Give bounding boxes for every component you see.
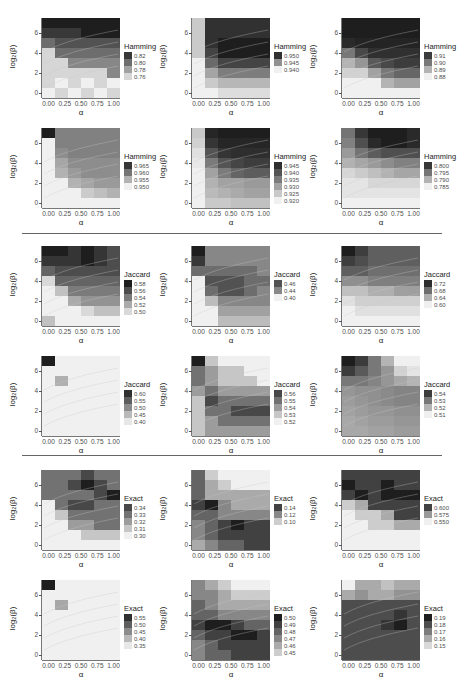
legend-entry: 0.54 bbox=[424, 390, 450, 397]
y-tick-label: 4 bbox=[176, 501, 188, 508]
x-axis-label: α bbox=[192, 336, 270, 345]
legend-swatch bbox=[124, 621, 132, 628]
y-axis-label: log₂(β) bbox=[154, 490, 168, 530]
legend-title: Jaccard bbox=[424, 270, 450, 279]
legend-value: 0.950 bbox=[284, 53, 299, 59]
y-tick-mark bbox=[39, 53, 42, 54]
y-axis-label-text: log₂(β) bbox=[308, 263, 317, 307]
legend-swatch bbox=[424, 404, 432, 411]
y-tick-label: 4 bbox=[326, 49, 338, 56]
y-tick-label: 2 bbox=[176, 297, 188, 304]
legend-swatch bbox=[124, 52, 132, 59]
legend-swatch bbox=[124, 66, 132, 73]
x-tick-label: 1.00 bbox=[254, 328, 274, 335]
contour-lines bbox=[342, 18, 420, 98]
legend-value: 0.19 bbox=[434, 615, 446, 621]
y-axis-label-text: log₂(β) bbox=[8, 487, 17, 531]
y-tick-label: 2 bbox=[26, 521, 38, 528]
legend-swatch bbox=[424, 280, 432, 287]
heatmap-plot-area bbox=[342, 18, 420, 98]
legend-value: 0.47 bbox=[284, 636, 296, 642]
color-legend: Jaccard0.580.560.540.520.50 bbox=[124, 270, 150, 315]
contour-lines bbox=[342, 470, 420, 550]
heatmap-panel-hamming-r2c2: log₂(β)02460.000.250.500.751.00αHamming0… bbox=[154, 118, 304, 228]
legend-swatch bbox=[124, 287, 132, 294]
y-axis-label-text: log₂(β) bbox=[158, 263, 167, 307]
legend-value: 0.600 bbox=[434, 505, 449, 511]
y-tick-label: 6 bbox=[26, 139, 38, 146]
heatmap-plot-area bbox=[342, 356, 420, 436]
legend-entry: 0.51 bbox=[424, 411, 450, 418]
x-axis-label: α bbox=[42, 446, 120, 455]
legend-entry: 0.53 bbox=[424, 397, 450, 404]
legend-swatch bbox=[424, 390, 432, 397]
y-tick-label: 0 bbox=[326, 199, 338, 206]
legend-value: 0.785 bbox=[434, 184, 449, 190]
contour-lines bbox=[42, 246, 120, 326]
legend-value: 0.795 bbox=[434, 170, 449, 176]
legend-swatch bbox=[124, 511, 132, 518]
x-tick-label: 1.00 bbox=[254, 210, 274, 217]
legend-swatch bbox=[124, 169, 132, 176]
legend-entry: 0.17 bbox=[424, 628, 446, 635]
legend-entry: 0.940 bbox=[274, 66, 306, 73]
legend-entry: 0.935 bbox=[274, 176, 306, 183]
legend-entry: 0.14 bbox=[274, 504, 296, 511]
heatmap-panel-exact-r1c1: log₂(β)02460.000.250.500.751.00αExact0.3… bbox=[4, 460, 154, 570]
legend-value: 0.46 bbox=[284, 281, 296, 287]
y-tick-mark bbox=[339, 371, 342, 372]
y-tick-mark bbox=[39, 431, 42, 432]
y-tick-label: 4 bbox=[326, 159, 338, 166]
legend-swatch bbox=[124, 294, 132, 301]
legend-value: 0.55 bbox=[134, 398, 146, 404]
y-axis-line bbox=[191, 128, 192, 208]
y-tick-mark bbox=[189, 655, 192, 656]
legend-title: Hamming bbox=[424, 42, 456, 51]
legend-value: 0.53 bbox=[284, 412, 296, 418]
x-axis-line bbox=[342, 436, 420, 437]
legend-swatch bbox=[124, 404, 132, 411]
color-legend: Exact0.340.330.320.310.30 bbox=[124, 494, 146, 539]
legend-entry: 0.550 bbox=[424, 518, 449, 525]
legend-value: 0.40 bbox=[134, 636, 146, 642]
x-tick-label: 1.00 bbox=[104, 210, 124, 217]
section-divider-2 bbox=[22, 455, 442, 456]
y-tick-mark bbox=[339, 411, 342, 412]
y-axis-label-text: log₂(β) bbox=[308, 373, 317, 417]
legend-value: 0.550 bbox=[434, 519, 449, 525]
contour-lines bbox=[192, 128, 270, 208]
legend-title: Hamming bbox=[424, 152, 456, 161]
y-tick-mark bbox=[189, 525, 192, 526]
y-tick-label: 0 bbox=[176, 317, 188, 324]
heatmap-panel-hamming-r2c3: log₂(β)02460.000.250.500.751.00αHamming0… bbox=[304, 118, 454, 228]
y-tick-label: 0 bbox=[326, 317, 338, 324]
y-axis-label: log₂(β) bbox=[304, 600, 318, 640]
y-axis-line bbox=[191, 356, 192, 436]
legend-title: Hamming bbox=[274, 152, 306, 161]
y-tick-label: 2 bbox=[176, 631, 188, 638]
y-tick-mark bbox=[189, 485, 192, 486]
x-axis-label: α bbox=[342, 446, 420, 455]
y-tick-label: 2 bbox=[26, 69, 38, 76]
y-tick-label: 0 bbox=[326, 89, 338, 96]
y-tick-mark bbox=[39, 505, 42, 506]
x-axis-label: α bbox=[42, 560, 120, 569]
legend-value: 0.51 bbox=[434, 412, 446, 418]
legend-entry: 0.91 bbox=[424, 52, 456, 59]
legend-value: 0.955 bbox=[134, 177, 149, 183]
heatmap-panel-hamming-r1c1: log₂(β)02460.000.250.500.751.00αHamming0… bbox=[4, 8, 154, 118]
x-tick-label: 1.00 bbox=[404, 100, 424, 107]
legend-value: 0.91 bbox=[434, 53, 446, 59]
x-axis-label: α bbox=[42, 108, 120, 117]
heatmap-plot-area bbox=[192, 18, 270, 98]
legend-entry: 0.46 bbox=[274, 642, 296, 649]
x-axis-label: α bbox=[42, 670, 120, 679]
legend-entry: 0.60 bbox=[124, 390, 150, 397]
legend-entry: 0.56 bbox=[274, 390, 300, 397]
legend-swatch bbox=[124, 525, 132, 532]
legend-swatch bbox=[424, 169, 432, 176]
y-tick-mark bbox=[39, 525, 42, 526]
heatmap-panel-exact-r2c2: log₂(β)02460.000.250.500.751.00αExact0.5… bbox=[154, 570, 304, 680]
y-tick-label: 2 bbox=[326, 407, 338, 414]
legend-swatch bbox=[424, 301, 432, 308]
